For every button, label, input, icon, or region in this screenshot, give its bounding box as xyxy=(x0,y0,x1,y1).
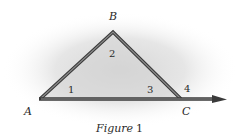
angle-label-4: 4 xyxy=(184,83,190,94)
angle-label-3: 3 xyxy=(147,84,153,95)
caption-number: 1 xyxy=(136,122,143,135)
caption-word: Figure xyxy=(95,122,134,135)
vertex-label-c: C xyxy=(182,105,191,118)
vertex-label-a: A xyxy=(23,105,32,118)
angle-label-2: 2 xyxy=(109,48,115,59)
vertex-label-b: B xyxy=(108,10,117,23)
figure-1: B A C 1 2 3 4 Figure1 xyxy=(0,0,244,137)
angle-label-1: 1 xyxy=(68,84,74,95)
figure-caption: Figure1 xyxy=(95,122,143,135)
triangle-diagram: B A C 1 2 3 4 Figure1 xyxy=(0,0,244,137)
